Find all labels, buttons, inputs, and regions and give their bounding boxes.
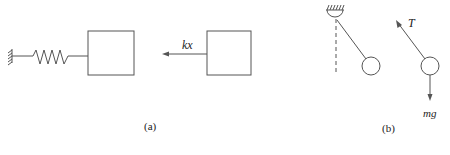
spring: [12, 50, 88, 64]
caption-a: (a): [144, 120, 157, 133]
weight-label: mg: [423, 107, 437, 119]
physics-diagram: kx T mg (a) (b): [0, 0, 450, 155]
block-free-body: [207, 31, 251, 75]
panel-a-free-body: [162, 31, 251, 75]
panel-b-free-body: [396, 20, 439, 101]
pendulum-string: [337, 20, 366, 59]
panel-a-spring-system: [8, 31, 134, 75]
pivot: [327, 10, 343, 17]
tension-label: T: [408, 16, 416, 30]
wall-hatching: [8, 50, 12, 65]
panel-b-pendulum: [326, 5, 380, 75]
arrow-down-icon: [428, 94, 433, 101]
ceiling-hatching: [327, 5, 344, 10]
pendulum-bob: [362, 57, 380, 75]
free-body-bob: [421, 57, 439, 75]
kx-label: kx: [182, 38, 193, 52]
caption-b: (b): [382, 122, 395, 135]
arrow-left-icon: [162, 52, 169, 57]
block-a: [88, 31, 134, 75]
